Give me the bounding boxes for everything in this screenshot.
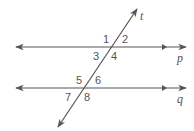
diagram-svg: t p q 1 2 3 4 5 6 7 8 xyxy=(0,0,194,131)
label-p: p xyxy=(176,51,183,65)
parallel-marker-q xyxy=(162,85,167,91)
line-t xyxy=(58,9,137,127)
parallel-marker-p xyxy=(162,44,167,50)
angle-1: 1 xyxy=(103,33,109,45)
angle-3: 3 xyxy=(93,50,99,62)
angle-7: 7 xyxy=(65,91,71,103)
angle-5: 5 xyxy=(76,74,82,86)
label-q: q xyxy=(177,92,183,106)
diagram-canvas: t p q 1 2 3 4 5 6 7 8 xyxy=(0,0,194,131)
angle-8: 8 xyxy=(84,91,90,103)
label-t: t xyxy=(140,9,144,23)
line-p xyxy=(16,44,186,50)
angle-6: 6 xyxy=(95,74,101,86)
angle-2: 2 xyxy=(122,33,128,45)
angle-4: 4 xyxy=(111,50,117,62)
